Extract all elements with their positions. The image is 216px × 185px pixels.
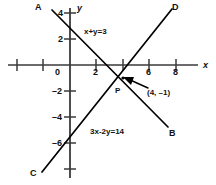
- x-tick-label-2: 2: [93, 68, 98, 77]
- equation-label-cd: 3x-2y=14: [90, 128, 124, 136]
- y-tick-label--4: –4: [52, 113, 62, 122]
- x-tick-label-8: 8: [173, 68, 178, 77]
- x-tick-label-6: 6: [146, 68, 151, 77]
- x-tick-label-0: 0: [55, 68, 60, 77]
- line-endpoint-label-d: D: [172, 3, 179, 12]
- graph-canvas: x y 0 2 6 8 4 2 –2 –4 –6 A B C D x+y=3 3…: [0, 0, 216, 185]
- y-tick-label--6: –6: [52, 139, 62, 148]
- line-endpoint-label-c: C: [30, 169, 37, 178]
- y-tick-label-2: 2: [58, 35, 63, 44]
- intersection-point-label: P: [115, 87, 120, 95]
- x-axis-label: x: [203, 61, 208, 70]
- y-axis-label: y: [77, 4, 82, 13]
- intersection-point-marker: [121, 76, 124, 79]
- coordinate-plane-svg: [0, 0, 216, 185]
- line-endpoint-label-b: B: [169, 129, 176, 138]
- y-tick-label--2: –2: [52, 87, 62, 96]
- line-endpoint-label-a: A: [35, 3, 42, 12]
- intersection-coordinate-label: (4, –1): [147, 89, 170, 97]
- y-tick-label-4: 4: [58, 9, 63, 18]
- equation-label-ab: x+y=3: [84, 28, 107, 36]
